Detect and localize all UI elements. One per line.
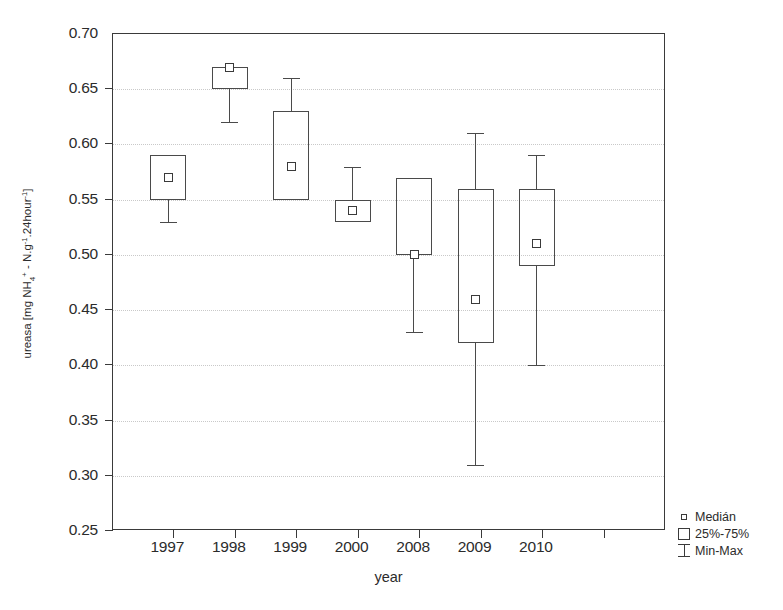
whisker-cap-lower — [221, 122, 238, 123]
x-tick-mark — [296, 530, 297, 538]
y-tick-label: 0.35 — [36, 411, 98, 429]
minmax-symbol-icon — [678, 544, 690, 557]
quartile-box — [519, 189, 555, 266]
boxplot-1999 — [266, 34, 316, 531]
x-tick-mark — [419, 530, 420, 538]
x-axis-title: year — [112, 569, 665, 585]
whisker-lower — [413, 255, 414, 332]
whisker-lower — [229, 89, 230, 122]
whisker-cap-upper — [467, 133, 484, 134]
whisker-cap-lower — [528, 365, 545, 366]
y-tick-label: 0.60 — [36, 134, 98, 152]
plot-area — [112, 33, 665, 530]
y-tick-label: 0.30 — [36, 466, 98, 484]
x-tick-mark — [542, 530, 543, 538]
median-marker — [410, 250, 419, 259]
legend-item-quartiles: 25%-75% — [678, 525, 783, 542]
y-axis-title-text: ureasa [mg NH4+ - N.g-1.24hour-1] — [21, 189, 33, 359]
whisker-upper — [475, 133, 476, 188]
x-tick-label-1998: 1998 — [194, 538, 264, 556]
legend-item-median: Medián — [678, 508, 783, 525]
x-tick-mark — [173, 530, 174, 538]
box-symbol-icon — [678, 528, 690, 540]
whisker-cap-lower — [406, 332, 423, 333]
y-tick-label: 0.55 — [36, 190, 98, 208]
median-marker — [471, 295, 480, 304]
x-tick-label-1999: 1999 — [255, 538, 325, 556]
page-caption — [0, 596, 783, 610]
median-symbol-icon — [681, 514, 687, 520]
x-tick-label-1997: 1997 — [132, 538, 202, 556]
boxplot-2010 — [512, 34, 562, 531]
x-tick-label-2009: 2009 — [440, 538, 510, 556]
x-tick-mark — [604, 530, 605, 538]
whisker-upper — [291, 78, 292, 111]
whisker-lower — [475, 343, 476, 464]
legend-item-minmax: Min-Max — [678, 542, 783, 559]
whisker-lower — [536, 266, 537, 365]
y-tick-mark — [105, 530, 113, 531]
boxplot-2000 — [328, 34, 378, 531]
median-marker — [532, 239, 541, 248]
legend-label-median: Medián — [695, 510, 736, 524]
y-tick-label: 0.50 — [36, 245, 98, 263]
quartile-box — [396, 178, 432, 255]
median-marker — [164, 173, 173, 182]
quartile-box — [458, 189, 494, 344]
median-marker — [225, 63, 234, 72]
median-marker — [287, 162, 296, 171]
boxplot-2009 — [451, 34, 501, 531]
whisker-cap-upper — [528, 155, 545, 156]
boxplot-2008 — [389, 34, 439, 531]
y-tick-label: 0.25 — [36, 521, 98, 539]
y-tick-label: 0.40 — [36, 355, 98, 373]
boxplot-figure: ureasa [mg NH4+ - N.g-1.24hour-1] 0.700.… — [0, 0, 783, 610]
boxplot-1997 — [143, 34, 193, 531]
x-tick-mark — [358, 530, 359, 538]
legend-label-minmax: Min-Max — [695, 544, 743, 558]
y-tick-label: 0.65 — [36, 79, 98, 97]
x-tick-mark — [481, 530, 482, 538]
x-tick-mark — [235, 530, 236, 538]
whisker-upper — [352, 167, 353, 200]
x-tick-label-2008: 2008 — [378, 538, 448, 556]
median-marker — [348, 206, 357, 215]
whisker-cap-upper — [283, 78, 300, 79]
boxplot-1998 — [205, 34, 255, 531]
whisker-cap-lower — [467, 465, 484, 466]
legend-label-quartiles: 25%-75% — [695, 527, 749, 541]
quartile-box — [273, 111, 309, 199]
whisker-cap-upper — [344, 167, 361, 168]
whisker-lower — [168, 200, 169, 222]
x-tick-label-2000: 2000 — [317, 538, 387, 556]
whisker-cap-lower — [160, 222, 177, 223]
y-tick-label: 0.70 — [36, 24, 98, 42]
y-axis-title: ureasa [mg NH4+ - N.g-1.24hour-1] — [19, 124, 36, 424]
y-tick-label: 0.45 — [36, 300, 98, 318]
whisker-upper — [536, 155, 537, 188]
chart-legend: Medián 25%-75% Min-Max — [678, 508, 783, 559]
x-tick-label-2010: 2010 — [501, 538, 571, 556]
